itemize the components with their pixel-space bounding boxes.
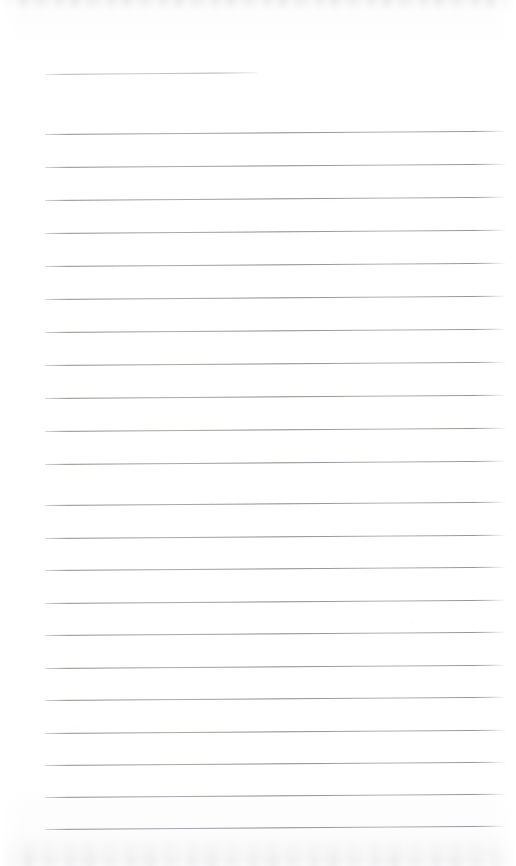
header-rule	[45, 72, 257, 75]
ruled-line	[45, 197, 505, 201]
ruled-line	[45, 826, 505, 830]
ruled-line	[45, 428, 505, 432]
ruled-line	[45, 329, 505, 333]
ruled-line	[45, 461, 505, 465]
ruled-line	[45, 164, 505, 168]
ruled-line	[45, 263, 505, 267]
ruled-line	[45, 567, 505, 571]
ruled-line	[45, 697, 505, 701]
ruled-lines-layer	[0, 0, 516, 866]
ruled-line	[45, 632, 505, 636]
ruled-line	[45, 794, 505, 798]
scanned-page	[0, 0, 516, 866]
ruled-line	[45, 395, 505, 399]
ruled-line	[45, 762, 505, 766]
ruled-line	[45, 230, 505, 234]
ruled-line	[45, 535, 505, 539]
ruled-line	[45, 296, 505, 300]
ruled-line	[45, 362, 505, 366]
ruled-line	[45, 730, 505, 734]
ruled-line	[45, 131, 505, 135]
ruled-line	[45, 502, 505, 506]
ruled-line	[45, 665, 505, 669]
ruled-line	[45, 600, 505, 604]
